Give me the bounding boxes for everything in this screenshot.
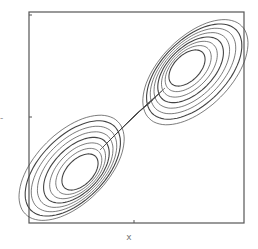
trajectory-bridge xyxy=(115,103,150,135)
plot-area xyxy=(0,0,258,249)
trajectory-loop xyxy=(169,50,205,86)
trajectory-loop xyxy=(62,154,98,190)
x-axis-label: x xyxy=(126,232,131,242)
attractor-curves xyxy=(19,20,248,221)
y-axis-label: - xyxy=(0,113,3,123)
